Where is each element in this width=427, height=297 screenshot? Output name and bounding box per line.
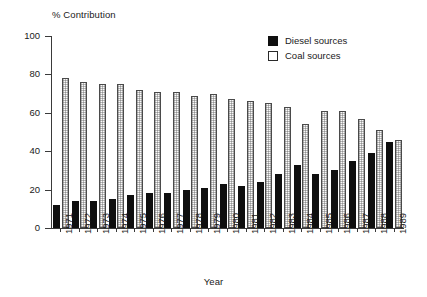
x-axis-tick-label: 1972 (83, 213, 93, 234)
legend-item: Diesel sources (268, 33, 347, 48)
x-axis-tick (116, 228, 117, 232)
x-axis-tick-label: 1987 (361, 213, 371, 234)
x-axis-tick (338, 228, 339, 232)
bar-coal (265, 103, 272, 228)
y-axis-tick (45, 113, 51, 114)
y-axis-tick-label: 80 (0, 69, 40, 79)
y-axis-tick (45, 228, 51, 229)
x-axis-tick (227, 228, 228, 232)
x-axis-tick-label: 1985 (324, 213, 334, 234)
bar-coal (321, 111, 328, 228)
y-axis-tick (45, 151, 51, 152)
x-axis-tick-label: 1977 (175, 213, 185, 234)
x-axis-tick (264, 228, 265, 232)
bar-coal (358, 119, 365, 228)
x-axis-tick (320, 228, 321, 232)
bar-chart: % Contribution 020406080100 197119721973… (0, 0, 427, 297)
legend-swatch-coal-icon (268, 51, 278, 61)
bar-coal (173, 92, 180, 228)
x-axis-title: Year (0, 276, 427, 287)
y-axis-tick (45, 36, 51, 37)
bar-coal (62, 78, 69, 228)
x-axis-tick (357, 228, 358, 232)
x-axis-tick-label: 1979 (212, 213, 222, 234)
x-axis-tick (134, 228, 135, 232)
y-axis-tick-label: 20 (0, 185, 40, 195)
bar-coal (99, 84, 106, 228)
x-axis-tick-label: 1986 (342, 213, 352, 234)
chart-legend: Diesel sourcesCoal sources (268, 33, 347, 63)
x-axis-tick-label: 1981 (250, 213, 260, 234)
x-axis-tick-label: 1982 (268, 213, 278, 234)
legend-label: Diesel sources (285, 36, 347, 46)
y-axis-tick-label: 60 (0, 108, 40, 118)
x-axis-tick-label: 1989 (398, 213, 408, 234)
x-axis-tick-label: 1971 (64, 213, 74, 234)
x-axis-tick (97, 228, 98, 232)
bar-coal (247, 101, 254, 228)
x-axis-tick (60, 228, 61, 232)
bar-coal (339, 111, 346, 228)
bar-coal (154, 92, 161, 228)
x-axis-tick (208, 228, 209, 232)
y-axis-tick (45, 190, 51, 191)
y-axis-tick (45, 74, 51, 75)
y-axis-tick-label: 0 (0, 223, 40, 233)
bar-coal (191, 96, 198, 228)
x-axis-tick-label: 1976 (157, 213, 167, 234)
x-axis-tick-label: 1978 (194, 213, 204, 234)
x-axis-tick-label: 1988 (379, 213, 389, 234)
x-axis-tick-label: 1983 (287, 213, 297, 234)
x-axis-tick-label: 1980 (231, 213, 241, 234)
legend-label: Coal sources (285, 51, 340, 61)
x-axis-tick-label: 1973 (101, 213, 111, 234)
x-axis-tick-label: 1984 (305, 213, 315, 234)
y-axis-title: % Contribution (52, 9, 116, 20)
legend-item: Coal sources (268, 48, 347, 63)
y-axis-tick-label: 100 (0, 31, 40, 41)
bar-coal (80, 82, 87, 228)
x-axis-tick (375, 228, 376, 232)
x-axis-tick-label: 1974 (120, 213, 130, 234)
x-axis-tick (246, 228, 247, 232)
bar-diesel (53, 205, 60, 228)
x-axis-tick (171, 228, 172, 232)
y-axis-tick-label: 40 (0, 146, 40, 156)
x-axis-tick (190, 228, 191, 232)
bar-coal (117, 84, 124, 228)
bar-coal (284, 107, 291, 228)
bar-coal (228, 99, 235, 228)
x-axis-tick-label: 1975 (138, 213, 148, 234)
x-axis-tick (283, 228, 284, 232)
x-axis-tick (394, 228, 395, 232)
x-axis-tick (301, 228, 302, 232)
x-axis-tick (79, 228, 80, 232)
plot-area (52, 36, 404, 228)
x-axis-tick (153, 228, 154, 232)
bar-coal (136, 90, 143, 228)
bar-coal (210, 94, 217, 228)
legend-swatch-diesel-icon (268, 36, 278, 46)
